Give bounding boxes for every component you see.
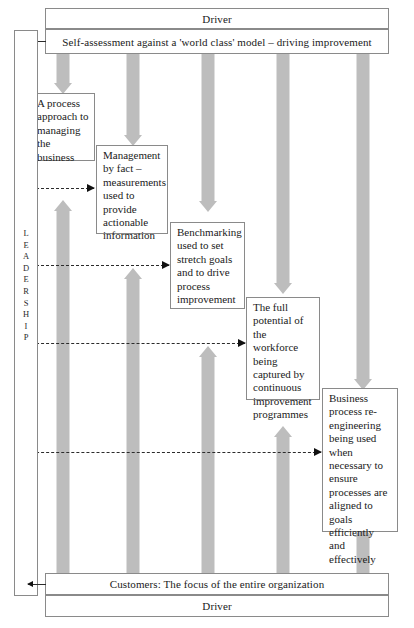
arrowhead-down-icon bbox=[199, 201, 217, 212]
leadership-letter: P bbox=[14, 332, 38, 344]
leadership-letter: I bbox=[14, 321, 38, 333]
bottom-driver-label: Driver bbox=[202, 600, 231, 612]
customers-to-leadership-arrow bbox=[28, 584, 46, 585]
leadership-letter: S bbox=[14, 298, 38, 310]
driver-down-arrow-4 bbox=[276, 54, 289, 294]
bottom-driver-banner: Driver bbox=[45, 595, 389, 617]
leadership-letter: E bbox=[14, 240, 38, 252]
arrow-shaft bbox=[201, 357, 214, 574]
leadership-letter: A bbox=[14, 251, 38, 263]
arrow-shaft bbox=[356, 54, 369, 379]
arrowhead-right-icon bbox=[238, 339, 246, 347]
leadership-letter: E bbox=[14, 274, 38, 286]
customer-up-arrow-2 bbox=[126, 268, 139, 574]
leadership-letter: D bbox=[14, 263, 38, 275]
arrowhead-up-icon bbox=[274, 426, 292, 437]
customer-up-arrow-3 bbox=[201, 346, 214, 574]
arrow-shaft bbox=[276, 437, 289, 574]
arrow-shaft bbox=[276, 54, 289, 283]
leadership-to-benchmarking-arrow bbox=[26, 265, 169, 266]
customers-banner: Customers: The focus of the entire organ… bbox=[45, 573, 389, 595]
leadership-letter: R bbox=[14, 286, 38, 298]
step-label: A process approach to managing the busin… bbox=[37, 97, 89, 163]
leadership-to-business-process-reengineering-arrow bbox=[26, 452, 321, 453]
customer-up-arrow-4 bbox=[276, 426, 289, 574]
arrow-shaft bbox=[126, 279, 139, 574]
self-assessment-banner: Self-assessment against a 'world class' … bbox=[45, 29, 389, 54]
leadership-to-workforce-potential-arrow bbox=[26, 343, 245, 344]
driver-down-arrow-2 bbox=[126, 54, 139, 146]
leadership-letter: L bbox=[14, 228, 38, 240]
step-box-process-approach[interactable]: A process approach to managing the busin… bbox=[30, 93, 95, 161]
step-box-benchmarking[interactable]: Benchmarking used to set stretch goals a… bbox=[170, 222, 245, 309]
arrow-shaft bbox=[201, 54, 214, 201]
customer-up-arrow-1 bbox=[56, 200, 69, 574]
step-label: Benchmarking used to set stretch goals a… bbox=[177, 226, 242, 305]
step-box-business-process-reengineering[interactable]: Business process re-engineering being us… bbox=[322, 388, 398, 532]
step-label: Business process re-engineering being us… bbox=[329, 392, 387, 565]
dashed-line bbox=[26, 343, 245, 344]
arrowhead-up-icon bbox=[54, 200, 72, 211]
top-driver-label: Driver bbox=[202, 13, 231, 25]
arrowhead-left-icon bbox=[27, 581, 33, 587]
dashed-line bbox=[26, 265, 169, 266]
step-box-workforce-potential[interactable]: The full potential of the workforce bein… bbox=[246, 297, 320, 400]
arrowhead-up-icon bbox=[199, 346, 217, 357]
driver-down-arrow-3 bbox=[201, 54, 214, 212]
step-label: The full potential of the workforce bein… bbox=[253, 301, 312, 420]
self-assessment-label: Self-assessment against a 'world class' … bbox=[62, 36, 371, 48]
leadership-label: L E A D E R S H I P bbox=[14, 228, 38, 344]
arrow-shaft bbox=[56, 54, 69, 83]
diagram-canvas: L E A D E R S H I P Driver Self-assessme… bbox=[0, 0, 414, 628]
driver-down-arrow-1 bbox=[56, 54, 69, 94]
top-driver-banner: Driver bbox=[45, 8, 389, 29]
arrow-shaft bbox=[126, 54, 139, 135]
step-label: Management by fact – measurements used t… bbox=[103, 149, 166, 241]
arrowhead-right-icon bbox=[87, 184, 95, 192]
customers-label: Customers: The focus of the entire organ… bbox=[110, 578, 324, 590]
leadership-letter: H bbox=[14, 309, 38, 321]
arrowhead-up-icon bbox=[124, 268, 142, 279]
step-box-management-by-fact[interactable]: Management by fact – measurements used t… bbox=[96, 145, 168, 234]
arrowhead-right-icon bbox=[314, 448, 322, 456]
arrowhead-right-icon bbox=[162, 261, 170, 269]
arrowhead-down-icon bbox=[274, 283, 292, 294]
driver-down-arrow-5 bbox=[356, 54, 369, 390]
dashed-line bbox=[26, 452, 321, 453]
